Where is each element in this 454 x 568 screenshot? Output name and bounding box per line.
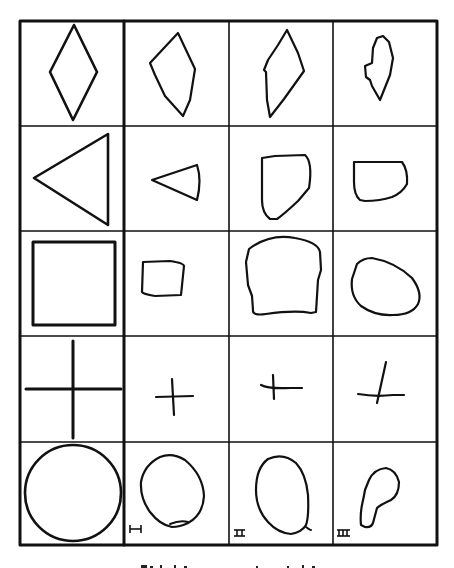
- copy-3-cross-horizontal: [358, 394, 404, 396]
- row-cross: [26, 341, 404, 438]
- row-square: [33, 237, 420, 325]
- copy-3-square: [352, 258, 420, 315]
- row-triangle: [34, 134, 407, 225]
- copy-1-diamond: [150, 33, 195, 116]
- model-square: [33, 242, 115, 325]
- copy-2-teardrop: [256, 456, 308, 534]
- copy-3-triangle: [354, 162, 407, 201]
- model-diamond: [50, 25, 97, 120]
- copy-1-square: [142, 261, 184, 296]
- model-triangle: [34, 134, 108, 225]
- copy-1-cross-horizontal: [156, 396, 193, 397]
- figure-grid: [0, 0, 454, 568]
- copy-2-diamond: [264, 30, 304, 117]
- row-diamond: [50, 25, 393, 120]
- copy-3-pear: [361, 468, 399, 527]
- copy-2-cross-horizontal: [261, 385, 302, 388]
- copy-1-triangle: [152, 165, 200, 200]
- shape-copying-figure: [0, 0, 454, 568]
- copy-3-diamond: [365, 36, 393, 100]
- marker-II: [234, 530, 245, 536]
- copy-2-triangle: [262, 155, 310, 219]
- model-circle: [25, 445, 121, 541]
- copy-2-square: [246, 237, 321, 315]
- copy-2-tail-stroke: [306, 527, 311, 530]
- marker-I: [130, 525, 141, 533]
- column-markers: [130, 525, 350, 536]
- marker-III: [337, 530, 350, 536]
- copy-1-oval: [141, 455, 204, 527]
- row-circle: [25, 445, 399, 541]
